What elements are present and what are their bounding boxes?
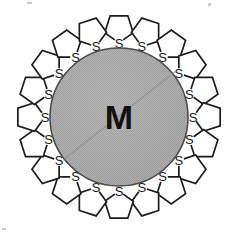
thiolane-ligand: S	[105, 16, 134, 51]
thiolane-ligand: S	[189, 103, 220, 132]
nanoparticle-diagram: SSSSSSSSSSSSSSSSSSSS M	[0, 0, 239, 236]
thiolane-ring-path	[196, 103, 220, 132]
sulfur-label: S	[189, 110, 198, 125]
scan-speck	[208, 3, 211, 6]
core-label: M	[105, 98, 133, 136]
thiolane-ligand: S	[18, 103, 50, 132]
thiolane-ring-path	[18, 103, 42, 132]
nanoparticle-core: M	[50, 48, 188, 186]
sulfur-label: S	[41, 110, 50, 125]
figure-root: SSSSSSSSSSSSSSSSSSSS M	[0, 0, 239, 236]
scan-speck	[2, 228, 6, 230]
scan-speck	[27, 2, 32, 4]
thiolane-ligand: S	[105, 184, 134, 219]
